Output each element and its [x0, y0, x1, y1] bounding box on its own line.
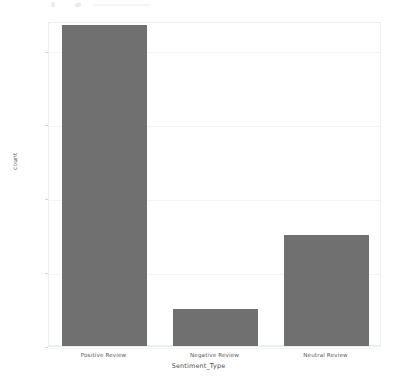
- x-axis-title: Sentiment_Type: [0, 362, 397, 370]
- y-axis: count 020000400006000080000: [0, 0, 48, 384]
- x-axis: Sentiment_Type Positive ReviewNegative R…: [0, 347, 397, 384]
- bar: [62, 25, 147, 346]
- bar: [284, 235, 369, 346]
- bar: [173, 309, 258, 346]
- x-tick-label: Neutral Review: [270, 353, 381, 359]
- x-tick-label: Positive Review: [48, 353, 159, 359]
- plot-area: [48, 22, 381, 347]
- cropped-text-artifact: [45, 1, 165, 9]
- x-tick-label: Negative Review: [159, 353, 270, 359]
- bar-chart-figure: count 020000400006000080000 Sentiment_Ty…: [0, 0, 397, 384]
- y-axis-title: count: [12, 153, 18, 170]
